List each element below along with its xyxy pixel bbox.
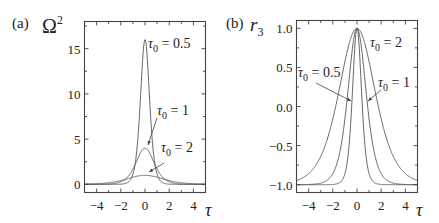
series-annotation: τ0 = 0.5 (298, 65, 340, 83)
series-annotation: τ0 = 2 (370, 35, 402, 53)
x-tick-label: 0 (354, 198, 361, 213)
panel-b-xlabel: τ (416, 200, 423, 220)
series-annotation: τ0 = 1 (157, 103, 189, 121)
y-tick-label: 10 (68, 87, 81, 102)
panel-a-ylabel: Ω2 (42, 13, 63, 37)
x-tick-label: −4 (302, 198, 316, 213)
y-tick-label: −1.0 (269, 178, 293, 193)
y-tick-label: 5 (74, 132, 81, 147)
series-annotation: τ0 = 1 (378, 75, 410, 93)
y-tick-label: 0 (74, 177, 81, 192)
panel-b-ylabel: r3 (250, 14, 263, 39)
series-line-tau0-0_5 (297, 28, 418, 184)
arrowhead-icon (148, 141, 151, 145)
series-line-tau0-2 (297, 28, 418, 180)
x-tick-label: 4 (402, 198, 409, 213)
y-tick-label: 15 (68, 42, 81, 57)
panel-a-xlabel: τ (205, 200, 212, 220)
panel-a-annotations: τ0 = 0.5τ0 = 1τ0 = 2 (148, 36, 193, 172)
y-tick-label: −0.5 (269, 139, 293, 154)
figure: (a) Ω2 τ −4−2024051015 τ0 = 0.5τ0 = 1τ0 … (0, 0, 439, 223)
panel-b-curves (297, 28, 418, 184)
annotation-arrow (316, 83, 351, 101)
y-tick-label: 0.5 (276, 60, 292, 75)
x-tick-label: −4 (90, 198, 104, 213)
x-tick-label: −2 (326, 198, 340, 213)
x-tick-label: 0 (142, 198, 149, 213)
x-tick-label: −2 (114, 198, 128, 213)
series-annotation: τ0 = 2 (161, 140, 193, 158)
x-tick-label: 2 (378, 198, 385, 213)
panel-a-label: (a) (12, 15, 29, 32)
panel-b-label: (b) (226, 15, 244, 32)
series-line-tau0-2 (85, 175, 206, 184)
x-tick-label: 2 (166, 198, 173, 213)
y-tick-label: 1.0 (276, 21, 292, 36)
series-annotation: τ0 = 0.5 (148, 36, 190, 54)
series-line-tau0-1 (297, 28, 418, 184)
x-tick-label: 4 (190, 198, 197, 213)
y-tick-label: 0.0 (276, 100, 292, 115)
panel-a: (a) Ω2 τ −4−2024051015 τ0 = 0.5τ0 = 1τ0 … (12, 13, 212, 220)
panel-b: (b) r3 τ −4−20241.00.50.0−0.5−1.0 τ0 = 2… (226, 14, 423, 220)
